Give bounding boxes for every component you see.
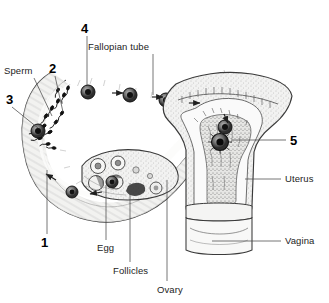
- label-uterus: Uterus: [285, 174, 314, 184]
- label-ovary: Ovary: [157, 285, 183, 295]
- cell-ampulla-1: [81, 85, 95, 99]
- label-number-5: 5: [290, 134, 297, 147]
- cell-released-egg: [106, 176, 118, 188]
- cell-ampulla-2: [123, 88, 137, 102]
- label-number-1: 1: [41, 236, 48, 249]
- label-vagina: Vagina: [285, 236, 314, 246]
- anatomy-drawing: [0, 0, 329, 303]
- label-fallopian-tube: Fallopian tube: [88, 42, 149, 52]
- label-number-2: 2: [49, 62, 56, 75]
- cell-travelling-egg: [66, 186, 78, 198]
- label-follicles: Follicles: [113, 266, 148, 276]
- label-number-4: 4: [81, 22, 88, 35]
- label-egg: Egg: [97, 243, 114, 253]
- label-sperm: Sperm: [4, 66, 32, 76]
- cell-zygote: [31, 124, 45, 138]
- label-number-3: 3: [6, 93, 13, 106]
- cervix: [186, 203, 252, 221]
- reproductive-system-diagram: 1 2 3 4 5 Sperm Fallopian tube Egg Folli…: [0, 0, 329, 303]
- vagina: [186, 218, 252, 255]
